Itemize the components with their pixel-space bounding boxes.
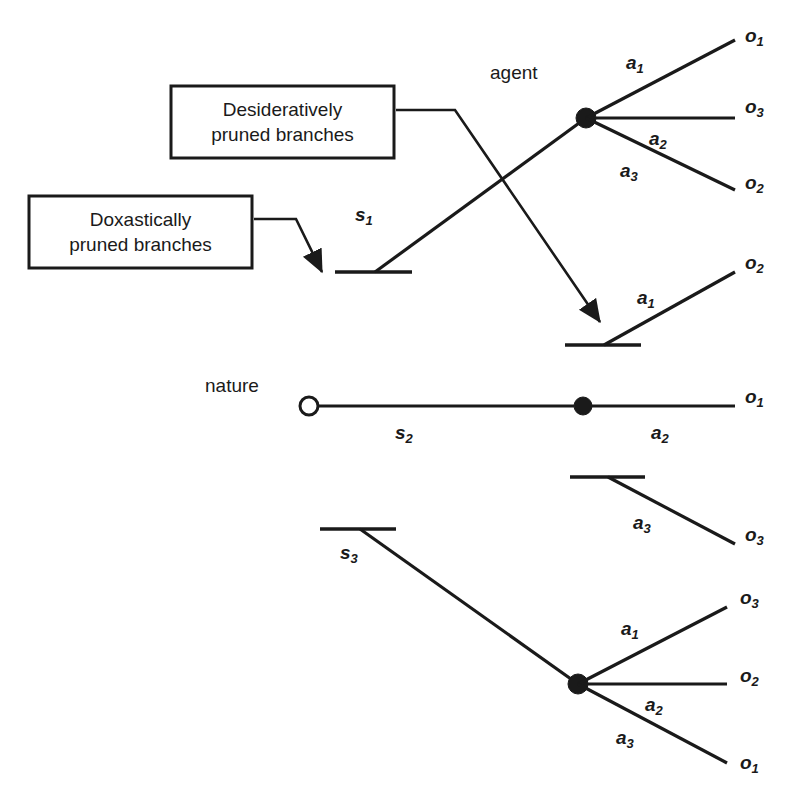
outcome-label-pruned-o2: o2: [745, 252, 764, 274]
edge-label-bottom-a1: a1: [621, 618, 639, 640]
edge-label-agent-a2: a2: [649, 128, 667, 150]
edge-pruned-a3: [608, 477, 735, 544]
desideratively-pruned-leader-arrow: [396, 110, 600, 322]
outcome-label-agent-o3: o3: [745, 96, 764, 118]
doxastically-pruned-leader-arrow: [254, 219, 322, 272]
edge-label-nature-a2: a2: [651, 422, 669, 444]
edge-label-bottom-a2: a2: [645, 694, 663, 716]
edge-label-agent-a1: a1: [626, 52, 644, 74]
edge-bottom-a1: [578, 607, 727, 684]
edge-label-s2: s2: [395, 422, 413, 444]
edge-s3: [360, 529, 578, 684]
diagram-canvas: [0, 0, 804, 803]
edge-label-agent-a3: a3: [620, 160, 638, 182]
edge-agent-a1: [586, 40, 735, 118]
edge-s1: [375, 118, 586, 272]
outcome-label-bottom-o3: o3: [740, 587, 759, 609]
edge-label-pruned-a3: a3: [633, 512, 651, 534]
outcome-label-agent-o2: o2: [745, 172, 764, 194]
edge-pruned-a1: [604, 272, 735, 345]
edge-label-s1: s1: [355, 204, 373, 226]
outcome-label-agent-o1: o1: [745, 25, 764, 47]
outcome-label-bottom-o1: o1: [740, 752, 759, 774]
edge-label-pruned-s1-a1: a1: [637, 287, 655, 309]
outcome-label-nature-o1: o1: [745, 386, 764, 408]
desideratively-pruned-callout-text: Desideratively pruned branches: [176, 97, 389, 147]
edge-label-s3: s3: [340, 542, 358, 564]
agent-player-label: agent: [490, 62, 538, 84]
decision-tree-diagram: Desideratively pruned branches Doxastica…: [0, 0, 804, 803]
nature-player-label: nature: [205, 375, 259, 397]
edge-label-bottom-a3: a3: [616, 727, 634, 749]
outcome-label-pruned-o3: o3: [745, 524, 764, 546]
nature-root-node: [300, 397, 318, 415]
outcome-label-bottom-o2: o2: [740, 665, 759, 687]
doxastically-pruned-callout-text: Doxastically pruned branches: [34, 207, 247, 257]
